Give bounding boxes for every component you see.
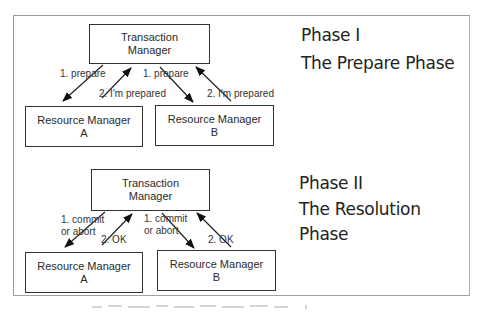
- rm-b2-line1: Resource Manager: [170, 258, 264, 271]
- label-ok-a: 2. OK: [101, 234, 127, 246]
- tm-line1: Transaction: [121, 31, 178, 44]
- phase1-title: Phase I: [301, 23, 360, 47]
- label-ok-b: 2. OK: [208, 234, 234, 246]
- resource-manager-a-box-phase2: Resource Manager A: [25, 252, 143, 293]
- phase2-subtitle-line2: Phase: [299, 222, 348, 246]
- label-prepared-b: 2. I'm prepared: [207, 88, 274, 100]
- label-prepare-a: 1. prepare: [60, 68, 106, 80]
- rm-b2-line2: B: [213, 271, 220, 284]
- label-prepare-b: 1. prepare: [143, 68, 189, 80]
- rm-b-line2: B: [211, 126, 218, 139]
- cutoff-caption-fragment: [92, 303, 322, 309]
- tm2-line2: Manager: [129, 190, 172, 203]
- resource-manager-a-box-phase1: Resource Manager A: [25, 106, 143, 147]
- label-commit-a-2: or abort: [61, 226, 95, 238]
- transaction-manager-box-phase2: Transaction Manager: [91, 169, 210, 211]
- transaction-manager-box-phase1: Transaction Manager: [89, 24, 210, 64]
- rm-a2-line2: A: [80, 273, 87, 286]
- phase1-subtitle: The Prepare Phase: [301, 51, 454, 75]
- resource-manager-b-box-phase1: Resource Manager B: [155, 105, 274, 146]
- label-commit-b-1: 1. commit: [144, 213, 187, 225]
- label-prepared-a: 2. I'm prepared: [99, 88, 166, 100]
- rm-b-line1: Resource Manager: [168, 113, 262, 126]
- resource-manager-b-box-phase2: Resource Manager B: [157, 250, 276, 291]
- phase2-title: Phase II: [299, 171, 363, 195]
- rm-a-line2: A: [80, 127, 87, 140]
- tm-line2: Manager: [128, 44, 171, 57]
- rm-a2-line1: Resource Manager: [37, 260, 131, 273]
- phase2-subtitle-line1: The Resolution: [299, 197, 421, 221]
- label-commit-a-1: 1. commit: [61, 214, 104, 226]
- rm-a-line1: Resource Manager: [37, 114, 131, 127]
- tm2-line1: Transaction: [122, 177, 179, 190]
- label-commit-b-2: or abort: [144, 225, 178, 237]
